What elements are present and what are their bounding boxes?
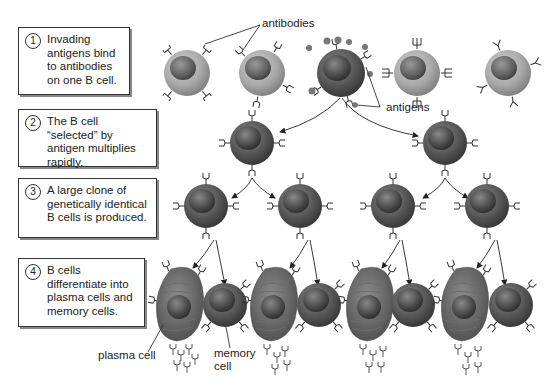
step-4-box: 4 B cells differentiate into plasma cell…: [18, 258, 145, 327]
step-text: A large clone of genetically identical B…: [47, 184, 147, 223]
step-1-box: 1 Invading antigens bind to antibodies o…: [18, 27, 130, 95]
step-number: 2: [25, 115, 41, 131]
row3-cells: [173, 173, 520, 239]
step-number: 4: [25, 264, 41, 280]
antibodies-label: antibodies: [262, 17, 314, 29]
row1-cells: [163, 37, 542, 109]
step-text: Invading antigens bind to antibodies on …: [47, 33, 117, 86]
step-number: 3: [25, 184, 41, 200]
step-3-box: 3 A large clone of genetically identical…: [18, 178, 157, 238]
step-text: B cells differentiate into plasma cells …: [47, 264, 133, 317]
memory-cell-label: memory cell: [214, 347, 258, 373]
clonal-selection-diagram: 1 Invading antigens bind to antibodies o…: [0, 0, 548, 386]
step-text: The B cell “selected” by antigen multipl…: [47, 115, 136, 168]
plasma-cell-label: plasma cell: [98, 349, 156, 361]
row4-cells: [148, 260, 536, 375]
row2-cells: [219, 110, 478, 176]
antigens-label: antigens: [386, 101, 429, 113]
step-2-box: 2 The B cell “selected” by antigen multi…: [18, 109, 157, 167]
step-number: 1: [25, 33, 41, 49]
